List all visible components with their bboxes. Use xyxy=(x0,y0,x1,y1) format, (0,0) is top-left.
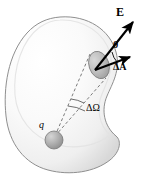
charge-label: q xyxy=(39,120,44,130)
theta-angle-label: θ xyxy=(113,40,118,50)
physics-figure: E θ ΔA ΔΩ q xyxy=(0,0,143,180)
area-element-label: ΔA xyxy=(113,62,127,72)
point-charge xyxy=(45,131,63,149)
figure-canvas xyxy=(0,0,143,180)
solid-angle-label: ΔΩ xyxy=(86,103,100,113)
field-vector-label: E xyxy=(116,6,124,18)
